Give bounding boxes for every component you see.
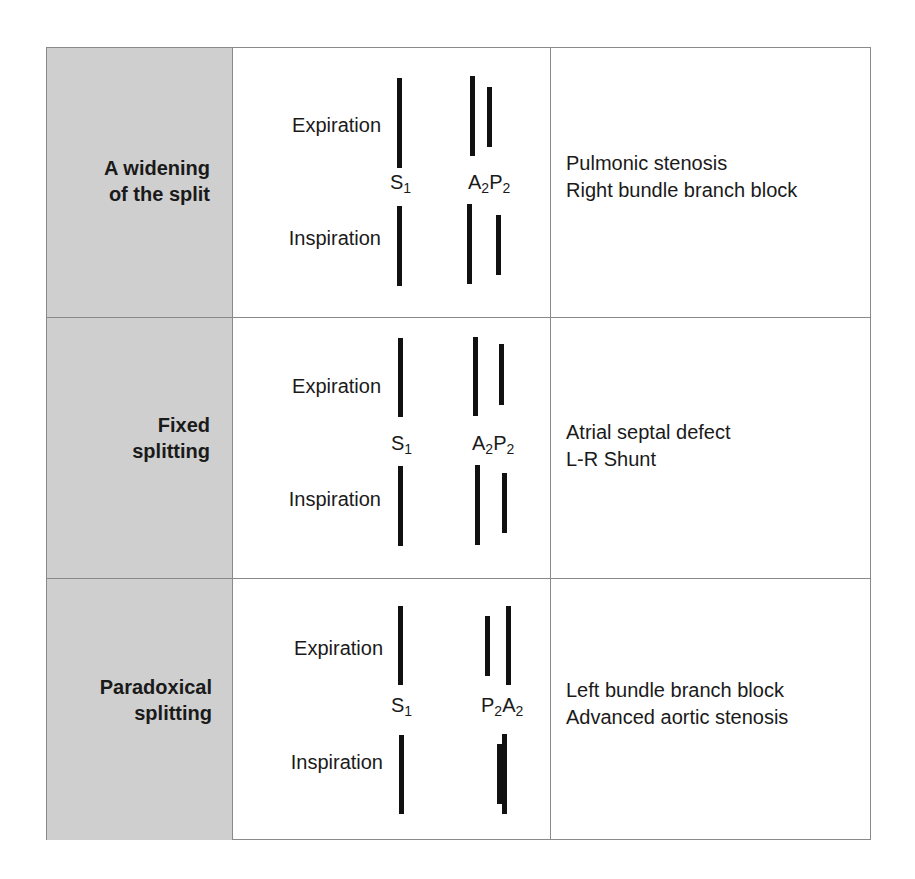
expiration-label: Expiration [261, 113, 381, 137]
expiration-label: Expiration [263, 636, 383, 660]
s1-inspiration-bar [398, 466, 403, 546]
phonogram-cell: Expiration Inspiration S1 A2P2 [233, 318, 551, 578]
s1-label: S1 [391, 431, 412, 455]
s1-inspiration-bar [399, 735, 404, 814]
phonogram-cell: Expiration Inspiration S1 A2P2 [233, 48, 551, 317]
s1-expiration-bar [398, 338, 403, 417]
a2-inspiration-bar [467, 204, 472, 284]
a2-inspiration-bar [502, 734, 507, 814]
p2-expiration-bar [485, 616, 490, 676]
table-row-fixed-splitting: Fixed splitting Expiration Inspiration S… [47, 317, 870, 578]
s2-components-label: A2P2 [472, 431, 514, 455]
p2-expiration-bar [487, 87, 492, 147]
row-name: Fixed splitting [132, 412, 210, 464]
s1-label: S1 [391, 693, 412, 717]
s1-expiration-bar [398, 606, 403, 685]
s1-label: S1 [390, 170, 411, 194]
phonogram-cell: Expiration Inspiration S1 P2A2 [233, 579, 551, 840]
a2-expiration-bar [470, 76, 475, 156]
a2-inspiration-bar [475, 465, 480, 545]
row-name-cell: A widening of the split [47, 48, 233, 317]
p2-inspiration-bar [496, 215, 501, 275]
heart-sound-splitting-table: A widening of the split Expiration Inspi… [46, 47, 871, 840]
s1-inspiration-bar [397, 206, 402, 286]
inspiration-label: Inspiration [263, 750, 383, 774]
inspiration-label: Inspiration [261, 487, 381, 511]
row-name: Paradoxical splitting [100, 674, 212, 726]
expiration-label: Expiration [261, 374, 381, 398]
a2-expiration-bar [473, 337, 478, 416]
conditions: Pulmonic stenosis Right bundle branch bl… [566, 150, 797, 204]
p2-expiration-bar [499, 344, 504, 405]
conditions: Left bundle branch block Advanced aortic… [566, 677, 788, 731]
condition-cell: Pulmonic stenosis Right bundle branch bl… [551, 48, 870, 317]
table-row-paradoxical-splitting: Paradoxical splitting Expiration Inspira… [47, 578, 870, 840]
inspiration-label: Inspiration [261, 226, 381, 250]
condition-cell: Atrial septal defect L-R Shunt [551, 318, 870, 578]
row-name: A widening of the split [104, 155, 210, 207]
s2-components-label: P2A2 [481, 693, 523, 717]
s2-components-label: A2P2 [468, 170, 510, 194]
row-name-cell: Paradoxical splitting [47, 579, 233, 840]
a2-expiration-bar [506, 606, 511, 685]
s1-expiration-bar [397, 78, 402, 168]
p2-inspiration-bar [502, 473, 507, 533]
condition-cell: Left bundle branch block Advanced aortic… [551, 579, 870, 840]
conditions: Atrial septal defect L-R Shunt [566, 419, 731, 473]
row-name-cell: Fixed splitting [47, 318, 233, 578]
table-row-widening-split: A widening of the split Expiration Inspi… [47, 48, 870, 317]
